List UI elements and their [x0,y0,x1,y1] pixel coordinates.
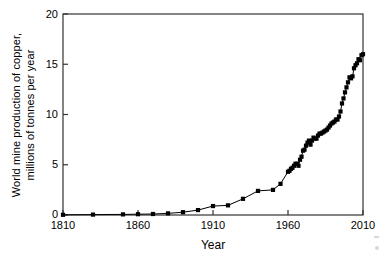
data-point [61,213,65,217]
data-point [343,90,347,94]
plot-frame [63,14,363,215]
data-point [308,143,312,147]
scan-artifact-2 [375,246,379,250]
data-point [358,58,362,62]
data-point [121,212,125,216]
data-point [166,211,170,215]
data-point [296,164,300,168]
series-markers [61,52,365,217]
data-point [241,197,245,201]
scan-artifact-1 [374,236,379,238]
data-point [302,148,306,152]
data-point [136,212,140,216]
data-point [361,52,365,56]
data-point [256,189,260,193]
data-point [338,109,342,113]
data-point [341,96,345,100]
data-point [196,208,200,212]
data-point [151,212,155,216]
data-point [299,155,303,159]
data-point [337,114,341,118]
data-point [226,203,230,207]
data-point [350,74,354,78]
data-point [211,204,215,208]
data-point [344,85,348,89]
chart-figure: World mine production of copper, million… [0,0,387,263]
data-point [340,101,344,105]
y-axis-ticks [63,14,68,215]
data-point [271,188,275,192]
data-point [278,182,282,186]
data-point [346,80,350,84]
data-point [181,210,185,214]
data-point [91,213,95,217]
plot-area [0,0,387,263]
